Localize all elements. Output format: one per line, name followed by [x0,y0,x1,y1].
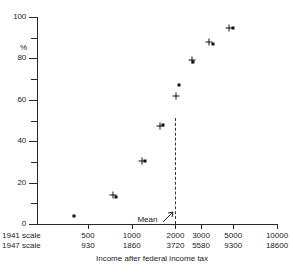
y-tick-label: 80 [0,54,26,62]
data-point-plus [139,157,146,164]
x-tick-label-1947: 18600 [266,241,288,250]
y-tick-major [29,100,37,101]
y-tick-major [29,58,37,59]
x-tick-label-1941: 2000 [167,231,185,240]
y-tick-minor [31,38,37,39]
y-tick-label: 60 [0,96,26,104]
data-point-dot [177,84,180,87]
y-axis-line [37,17,38,225]
y-tick-major [29,183,37,184]
y-axis-unit-label: % [20,44,27,52]
y-tick-major [29,224,37,225]
mean-annotation-label: Mean [137,216,157,224]
data-point-dot [72,214,75,217]
data-point-plus [189,57,196,64]
y-tick-label: 20 [0,179,26,187]
y-tick-label: 0 [0,220,26,228]
scale-label-1941: 1941 scale [2,231,41,240]
y-tick-minor [31,162,37,163]
x-tick-label-1947: 930 [81,241,94,250]
data-point-plus [205,38,212,45]
y-tick-major [29,141,37,142]
data-point-plus [226,25,233,32]
x-tick-label-1947: 1860 [123,241,141,250]
chart-container: 020406080100 % 500100020003000500010000 … [0,0,293,275]
x-tick [132,224,133,229]
x-tick-label-1941: 1000 [123,231,141,240]
y-tick-label: 40 [0,137,26,145]
data-point-plus [156,122,163,129]
data-point-plus [173,92,180,99]
x-tick-label-1941: 10000 [266,231,288,240]
scale-label-1947: 1947 scale [2,241,41,250]
mean-reference-line [175,118,176,224]
y-tick-minor [31,203,37,204]
y-tick-minor [31,79,37,80]
x-tick [201,224,202,229]
x-tick-label-1947: 3720 [167,241,185,250]
data-point-plus [109,192,116,199]
y-tick-minor [31,121,37,122]
x-tick [88,224,89,229]
y-tick-label: 100 [0,13,26,21]
x-tick-label-1941: 3000 [192,231,210,240]
x-tick [233,224,234,229]
x-tick [175,224,176,229]
y-tick-major [29,17,37,18]
x-axis-title: Income after federal income tax [96,254,208,263]
x-tick-label-1947: 9300 [224,241,242,250]
x-tick [277,224,278,229]
x-tick-label-1947: 5580 [192,241,210,250]
mean-arrow-icon [162,210,178,224]
x-tick-label-1941: 500 [81,231,94,240]
x-tick-label-1941: 5000 [224,231,242,240]
x-axis-line [37,224,277,225]
